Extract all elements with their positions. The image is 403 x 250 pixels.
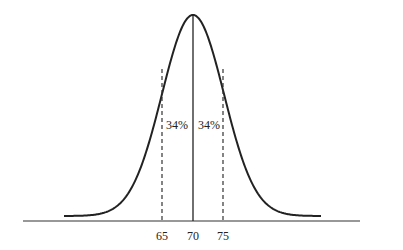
left-region-percent-label: 34% xyxy=(166,118,188,132)
tick-label-65: 65 xyxy=(156,229,168,243)
tick-label-75: 75 xyxy=(217,229,229,243)
tick-label-70: 70 xyxy=(187,229,199,243)
normal-distribution-diagram: 34% 34% 65 70 75 xyxy=(0,0,403,250)
right-region-percent-label: 34% xyxy=(198,118,220,132)
